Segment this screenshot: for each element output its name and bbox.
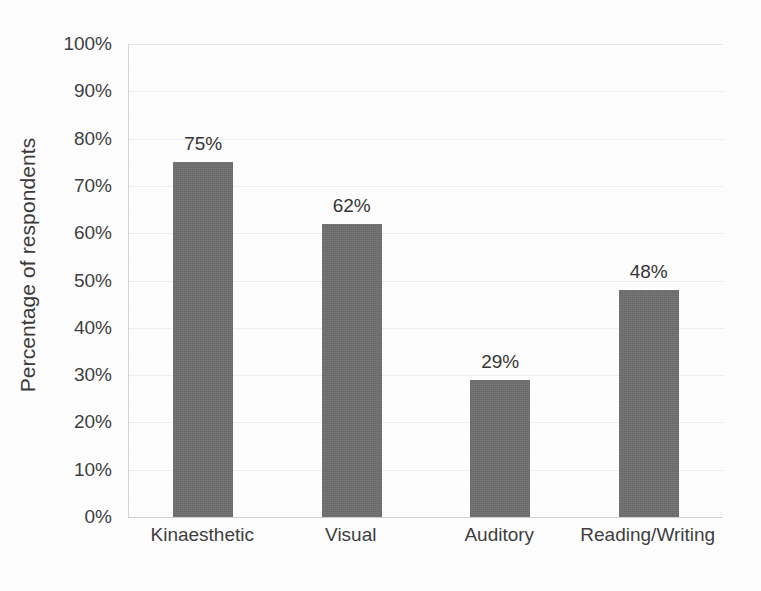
y-axis-tick-70: 70%: [74, 175, 112, 197]
bar-value-label: 48%: [630, 261, 668, 283]
y-axis-tick-0: 0%: [85, 506, 112, 528]
x-axis-tick-label: Reading/Writing: [574, 524, 723, 546]
bar-group[interactable]: 62%: [278, 44, 427, 517]
x-axis-tick-labels: KinaestheticVisualAuditoryReading/Writin…: [128, 524, 722, 558]
x-axis-tick-label: Visual: [277, 524, 426, 546]
y-axis-tick-20: 20%: [74, 411, 112, 433]
y-axis-tick-labels: 0%10%20%30%40%50%60%70%80%90%100%: [50, 44, 120, 517]
bar-group[interactable]: 29%: [426, 44, 575, 517]
x-axis-tick-label: Auditory: [425, 524, 574, 546]
bars-layer: 75%62%29%48%: [129, 44, 723, 517]
bar[interactable]: [470, 380, 530, 517]
y-axis-title-label: Percentage of respondents: [16, 138, 40, 393]
y-axis-tick-60: 60%: [74, 222, 112, 244]
bar-group[interactable]: 48%: [575, 44, 724, 517]
y-axis-tick-10: 10%: [74, 459, 112, 481]
y-axis-tick-100: 100%: [63, 33, 112, 55]
y-axis-tick-40: 40%: [74, 317, 112, 339]
bar-group[interactable]: 75%: [129, 44, 278, 517]
y-axis-tick-80: 80%: [74, 128, 112, 150]
bar[interactable]: [619, 290, 679, 517]
x-axis-tick-label: Kinaesthetic: [128, 524, 277, 546]
y-axis-tick-90: 90%: [74, 80, 112, 102]
bar-value-label: 29%: [481, 351, 519, 373]
bar-value-label: 75%: [184, 133, 222, 155]
y-axis-title: Percentage of respondents: [6, 0, 50, 530]
y-axis-tick-50: 50%: [74, 270, 112, 292]
bar[interactable]: [322, 224, 382, 517]
bar[interactable]: [173, 162, 233, 517]
bar-value-label: 62%: [333, 195, 371, 217]
bar-chart: Percentage of respondents 0%10%20%30%40%…: [0, 0, 761, 591]
plot-area: 75%62%29%48%: [128, 44, 723, 518]
y-axis-tick-30: 30%: [74, 364, 112, 386]
